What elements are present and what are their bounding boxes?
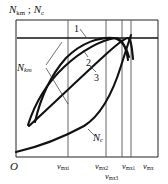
plot-background bbox=[16, 20, 158, 157]
curve-label-Nkm: Nkm bbox=[17, 62, 32, 73]
xtick-vmxi: vmxi bbox=[57, 162, 69, 171]
y-axis-label: Nkm ; Nc bbox=[9, 4, 44, 16]
xtick-vmx: vmx bbox=[143, 162, 154, 171]
xtick-vmx1: vmx1 bbox=[122, 162, 135, 171]
figure-container: Nkm ; Nc O vmxi vmx2 vmx3 vmx1 vmx Nkm N… bbox=[0, 0, 168, 184]
xtick-vmx2: vmx2 bbox=[95, 162, 108, 171]
curve-label-Nc: Nc bbox=[93, 132, 103, 143]
curve-label-1: 1 bbox=[74, 23, 79, 34]
curve-label-2: 2 bbox=[86, 57, 91, 68]
origin-label: O bbox=[10, 161, 18, 172]
xtick-vmx3: vmx3 bbox=[105, 172, 118, 181]
chart-canvas bbox=[0, 0, 168, 184]
curve-label-3: 3 bbox=[94, 72, 99, 83]
